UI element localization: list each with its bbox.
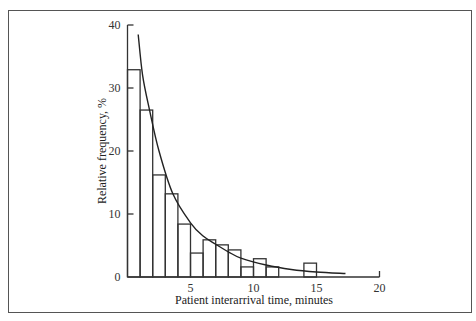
- histogram-bar: [165, 194, 178, 277]
- histogram-bar: [304, 263, 317, 277]
- histogram-bar: [178, 224, 191, 277]
- histogram-chart: 0102030405101520 Patient interarrival ti…: [0, 0, 476, 321]
- fitted-curve: [138, 34, 345, 273]
- histogram-bar: [241, 267, 254, 277]
- x-tick-label: 20: [374, 281, 386, 295]
- histogram-bar: [254, 259, 267, 277]
- y-tick-label: 30: [109, 81, 121, 95]
- y-tick-label: 10: [109, 207, 121, 221]
- histogram-bar: [228, 250, 241, 277]
- histogram-bar: [153, 175, 166, 277]
- y-tick-label: 40: [109, 18, 121, 32]
- histogram-bar: [128, 70, 141, 277]
- histogram-bars: [128, 70, 317, 277]
- histogram-bar: [203, 240, 216, 277]
- x-axis-title: Patient interarrival time, minutes: [175, 293, 333, 307]
- histogram-bar: [191, 253, 204, 277]
- y-axis-title: Relative frequency, %: [95, 98, 109, 204]
- histogram-bar: [216, 245, 229, 277]
- y-tick-label: 20: [109, 144, 121, 158]
- histogram-bar: [140, 110, 153, 277]
- axes: 0102030405101520: [109, 18, 386, 295]
- histogram-bar: [266, 267, 279, 277]
- y-tick-label: 0: [115, 270, 121, 284]
